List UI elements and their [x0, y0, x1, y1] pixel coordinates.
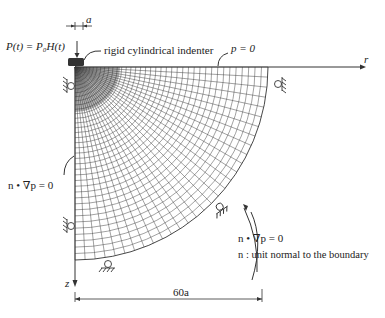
left-bc-label: n • ∇p = 0	[8, 180, 53, 191]
dimension-label: 60a	[173, 287, 189, 298]
indenter-leader-line	[84, 51, 101, 60]
surface-bc-leader-line	[218, 53, 228, 66]
roller-arc-icon	[210, 200, 230, 219]
indenter-label: rigid cylindrical indenter	[104, 45, 213, 56]
left-bc-leader-line	[64, 156, 74, 175]
roller-right-icon	[275, 77, 287, 93]
indenter-block-icon	[68, 58, 84, 66]
load-arrow-icon	[75, 53, 80, 58]
r-axis-arrow-icon	[360, 65, 366, 70]
roller-bottom-icon	[99, 261, 115, 273]
roller-left-lower-icon	[63, 217, 75, 233]
surface-bc-label: p = 0	[231, 43, 255, 54]
z-axis-label: z	[65, 278, 69, 289]
roller-left-top-icon	[63, 77, 75, 93]
normal-definition-label: n : unit normal to the boundary	[238, 250, 369, 261]
indenter-width-label: a	[86, 14, 92, 25]
diagram-root: P(t) = P₀H(t) rigid cylindrical indenter…	[0, 0, 385, 318]
r-axis-label: r	[364, 54, 368, 65]
z-axis-arrow-icon	[73, 280, 78, 287]
curved-bc-label: n • ∇p = 0	[238, 233, 283, 244]
load-label: P(t) = P₀H(t)	[6, 41, 65, 52]
